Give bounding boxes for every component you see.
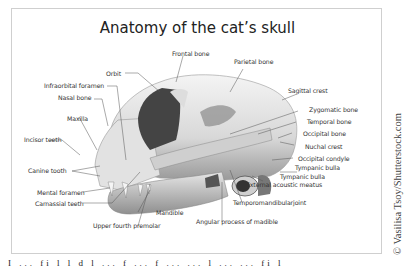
label-temporal-bone: Temporal bone bbox=[307, 118, 351, 125]
label-sagittal-crest: Sagittal crest bbox=[288, 87, 328, 94]
label-nasal-bone: Nasal bone bbox=[58, 94, 92, 101]
label-zygomatic-bone: Zygomatic bone bbox=[309, 106, 358, 113]
label-occipital-bone: Occipital bone bbox=[303, 130, 346, 137]
image-credit: © Vasilisa Tsoy/Shutterstock.com bbox=[392, 113, 403, 255]
label-mandible: Mandible bbox=[156, 209, 183, 216]
label-parietal-bone: Parietal bone bbox=[234, 58, 273, 65]
label-tympanic-bulla-1: Tympanic bulla bbox=[295, 164, 340, 171]
label-orbit: Orbit bbox=[106, 70, 121, 77]
label-incisor-teeth: Incisor teeth bbox=[24, 136, 61, 143]
label-angular-process: Angular process of madible bbox=[196, 218, 278, 225]
label-infraorbital-foramen: Infraorbital foramen bbox=[44, 82, 104, 89]
cropped-caption-text: I ... fi l l d l ... f ... f ... ... l .… bbox=[8, 258, 368, 266]
label-external-acoustic-meatus: External acoustic meatus bbox=[246, 181, 322, 188]
label-carnassial-teeth: Carnassial teeth bbox=[35, 200, 84, 207]
label-nuchal-crest: Nuchal crest bbox=[305, 143, 342, 150]
label-temporomandibular-joint: Temporomandibularjoint bbox=[233, 199, 306, 206]
label-tympanic-bulla-2: Tympanic bulla bbox=[280, 173, 325, 180]
label-mental-foramen: Mental foramen bbox=[37, 189, 85, 196]
label-frontal-bone: Frontal bone bbox=[172, 50, 209, 57]
label-maxilla: Maxilla bbox=[67, 115, 88, 122]
label-upper-fourth-premolar: Upper fourth premolar bbox=[93, 222, 160, 229]
label-occipital-condyle: Occipital condyle bbox=[298, 155, 349, 162]
label-canine-tooth: Canine tooth bbox=[28, 167, 67, 174]
